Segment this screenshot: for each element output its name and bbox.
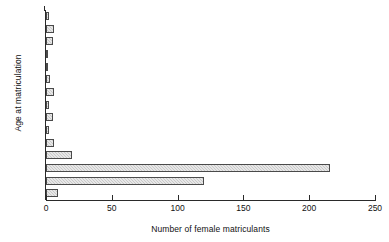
x-axis-line <box>46 200 376 201</box>
bar-row: 30 <box>46 10 375 23</box>
bar-row: 27 <box>46 48 375 61</box>
x-tick <box>46 195 47 200</box>
bar <box>46 151 72 159</box>
bar <box>46 189 58 197</box>
x-tick <box>243 195 244 200</box>
bar <box>46 37 53 45</box>
bar-row: 28 <box>46 35 375 48</box>
x-tick <box>178 195 179 200</box>
bar <box>46 101 49 109</box>
bar <box>46 177 204 185</box>
bar <box>46 126 49 134</box>
bar-row: 18 <box>46 162 375 175</box>
y-axis-title: Age at matriculation <box>13 23 23 163</box>
bar <box>46 63 48 71</box>
x-tick-label: 100 <box>158 203 198 213</box>
bar-row: 20 <box>46 137 375 150</box>
x-tick <box>112 195 113 200</box>
bar <box>46 75 50 83</box>
bar-row: 16 <box>46 187 375 200</box>
bar-row: 19 <box>46 149 375 162</box>
x-tick <box>309 195 310 200</box>
bar <box>46 50 48 58</box>
bar-row: 22 <box>46 111 375 124</box>
bar-chart: Age at matriculation 3029282726252423222… <box>0 0 389 242</box>
x-tick-label: 50 <box>92 203 132 213</box>
x-tick-label: 0 <box>26 203 66 213</box>
x-tick-label: 250 <box>355 203 389 213</box>
x-tick <box>375 195 376 200</box>
bar-row: 17 <box>46 175 375 188</box>
y-axis-top-cap <box>44 6 45 11</box>
x-axis-title: Number of female matriculants <box>46 224 375 234</box>
plot-area: 302928272625242322212019181716 <box>46 10 375 200</box>
bar <box>46 25 54 33</box>
x-tick-label: 150 <box>223 203 263 213</box>
bar-row: 29 <box>46 23 375 36</box>
bar <box>46 113 53 121</box>
bar <box>46 139 54 147</box>
bar <box>46 164 330 172</box>
x-tick-label: 200 <box>289 203 329 213</box>
bar-row: 24 <box>46 86 375 99</box>
bar-row: 21 <box>46 124 375 137</box>
bar-row: 23 <box>46 99 375 112</box>
bar-row: 26 <box>46 61 375 74</box>
bar <box>46 12 49 20</box>
bar <box>46 88 54 96</box>
bar-row: 25 <box>46 73 375 86</box>
